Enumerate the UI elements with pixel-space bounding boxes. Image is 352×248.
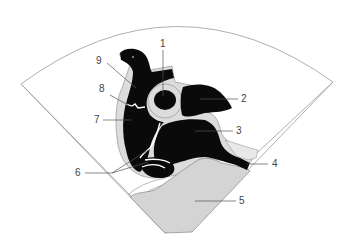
- label-7: 7: [94, 115, 100, 125]
- label-5: 5: [239, 196, 245, 206]
- label-3: 3: [236, 126, 242, 136]
- label-1: 1: [160, 39, 166, 49]
- label-8: 8: [99, 84, 105, 94]
- ultrasound-sector-diagram: [0, 0, 352, 248]
- label-9: 9: [96, 56, 102, 66]
- label-2: 2: [241, 94, 247, 104]
- label-4: 4: [272, 159, 278, 169]
- label-6: 6: [75, 168, 81, 178]
- aorta-lumen: [154, 90, 176, 110]
- appendage-dot: [132, 56, 134, 58]
